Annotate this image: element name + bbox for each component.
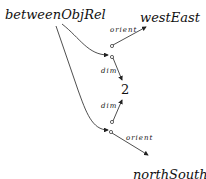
diagram-edges	[0, 0, 206, 179]
label-top-orient: orient	[110, 27, 137, 34]
edge-source-to-top-node	[62, 24, 108, 55]
edge-source-to-bottom-node	[56, 26, 108, 130]
node-2: 2	[121, 83, 129, 96]
node-northSouth: northSouth	[133, 168, 206, 179]
label-top-dim: dim	[101, 68, 117, 75]
node-westEast: westEast	[140, 11, 200, 24]
label-bottom-dim: dim	[101, 103, 117, 110]
label-bottom-orient: orient	[126, 135, 153, 142]
node-betweenObjRel: betweenObjRel	[5, 8, 106, 21]
